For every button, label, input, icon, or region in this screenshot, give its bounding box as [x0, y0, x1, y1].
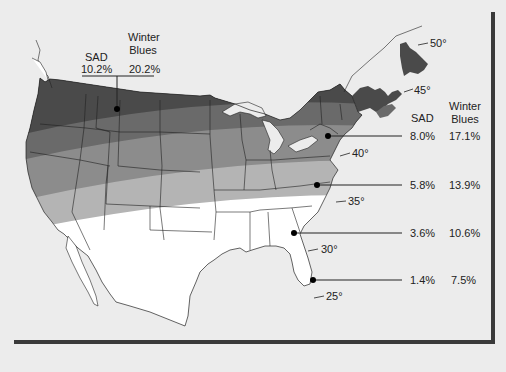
top-winter-value: 20.2%: [129, 63, 160, 75]
lat40-label: 40°: [352, 147, 369, 159]
row3-sad: 3.6%: [410, 227, 435, 239]
row3-winter: 10.6%: [449, 227, 480, 239]
right-sad-header: SAD: [411, 112, 434, 124]
row1-sad: 8.0%: [410, 130, 435, 142]
band2-marker-dot[interactable]: [325, 133, 331, 139]
top-winter-header-2: Blues: [128, 44, 158, 56]
row1-winter: 17.1%: [449, 130, 480, 142]
lat25-label: 25°: [326, 290, 343, 302]
lat30-label: 30°: [321, 243, 338, 255]
right-winter-header-1: Winter: [447, 100, 483, 112]
lat30-tick: [308, 249, 318, 251]
lat40-tick: [340, 153, 350, 156]
lat50-label: 50°: [430, 37, 447, 49]
top-sad-header: SAD: [85, 51, 108, 63]
row2-winter: 13.9%: [449, 179, 480, 191]
band3-marker-dot[interactable]: [314, 182, 320, 188]
vancouver-island: [32, 58, 48, 80]
top-winter-header-1: Winter: [128, 31, 158, 43]
lat25-tick: [314, 296, 324, 298]
band1-marker-dot[interactable]: [114, 106, 120, 112]
newfoundland-region: [400, 42, 428, 76]
lat35-tick: [336, 201, 346, 202]
lat45-tick: [404, 89, 413, 92]
top-sad-value: 10.2%: [81, 63, 112, 75]
row4-sad: 1.4%: [410, 274, 435, 286]
lat35-label: 35°: [348, 195, 365, 207]
band5-marker-dot[interactable]: [310, 277, 316, 283]
right-winter-header-2: Blues: [447, 113, 483, 125]
row2-sad: 5.8%: [410, 179, 435, 191]
lat50-tick: [418, 43, 428, 45]
band4-marker-dot[interactable]: [291, 230, 297, 236]
lat45-label: 45°: [414, 84, 431, 96]
row4-winter: 7.5%: [451, 274, 476, 286]
